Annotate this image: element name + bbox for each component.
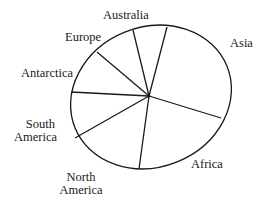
label-australia: Australia [103,9,149,22]
divider-south-america-antarctica [71,92,149,96]
label-africa: Africa [191,158,223,171]
pie-chart [0,0,265,206]
label-north-america-line2: America [56,184,106,197]
divider-africa-north-america [139,96,149,169]
divider-europe-australia [133,30,149,96]
label-south-america-line2: America [14,131,55,144]
pie-center [148,95,151,98]
divider-antarctica-europe [97,52,149,96]
label-europe: Europe [65,31,101,44]
label-asia: Asia [230,37,253,50]
divider-asia-africa [149,96,221,118]
label-south-america: South America [14,118,55,144]
divider-north-america-south-america [75,96,149,138]
label-north-america: North America [56,171,106,197]
label-antarctica: Antarctica [21,67,73,80]
divider-australia-asia [149,27,167,96]
